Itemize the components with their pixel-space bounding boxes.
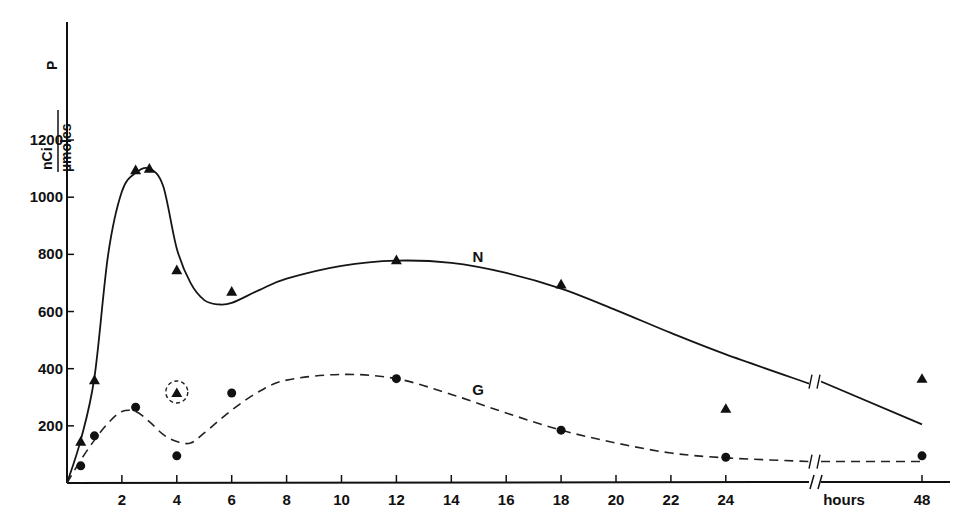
data-point-g [172,451,181,460]
x-axis-label: hours [823,491,865,508]
data-point-g [918,451,927,460]
x-axis-line [67,482,809,483]
series-labels: NG [472,248,484,398]
data-markers [75,163,927,470]
data-point-g [227,388,236,397]
y-axis-label-suffix: P [44,61,60,70]
x-tick-label: 14 [443,491,460,508]
data-point-g [90,431,99,440]
x-tick-label: 6 [228,491,236,508]
y-tick-label: 200 [38,417,63,434]
data-point-n [75,436,86,446]
x-tick-label: 10 [333,491,350,508]
curve-g-break-mark [817,455,820,469]
curve-n [67,168,809,483]
outlier-point-n [171,387,182,397]
curve-g-break-mark [809,455,812,469]
fitted-curves [67,168,922,483]
data-point-n [556,279,567,289]
y-tick-label: 1000 [30,188,63,205]
data-point-n [171,265,182,275]
y-tick-label: 800 [38,245,63,262]
x-ticks: 2468101214161820222448 [118,475,931,508]
y-tick-label: 1200 [30,131,63,148]
x-tick-label: 48 [914,491,931,508]
x-tick-label: 24 [717,491,734,508]
data-point-n [391,255,402,265]
x-tick-label: 2 [118,491,126,508]
y-tick-label: 600 [38,303,63,320]
y-axis-label: nCi µmoles P [39,61,74,172]
y-axis-label-numerator: nCi [39,147,55,170]
x-tick-label: 12 [388,491,405,508]
x-tick-label: 18 [553,491,570,508]
x-tick-label: 20 [608,491,625,508]
series-label-g: G [472,381,484,398]
curve-n-break-mark [817,375,820,389]
data-point-n [226,286,237,296]
x-tick-label: 8 [282,491,290,508]
x-tick-label: 22 [663,491,680,508]
data-point-g [131,403,140,412]
data-point-g [721,453,730,462]
y-tick-label: 400 [38,360,63,377]
data-point-g [392,374,401,383]
axes [67,22,950,489]
curve-n-break-mark [809,375,812,389]
x-tick-label: 16 [498,491,515,508]
chart: nCi µmoles P 20040060080010001200 246810… [0,0,976,532]
x-tick-label: 4 [173,491,182,508]
data-point-g [76,461,85,470]
data-point-n [917,373,928,383]
series-label-n: N [473,248,484,265]
data-point-n [89,375,100,385]
data-point-g [557,426,566,435]
x-axis-break-mark [810,475,814,489]
data-point-n [720,403,731,413]
curve-n-after-break [821,382,922,425]
